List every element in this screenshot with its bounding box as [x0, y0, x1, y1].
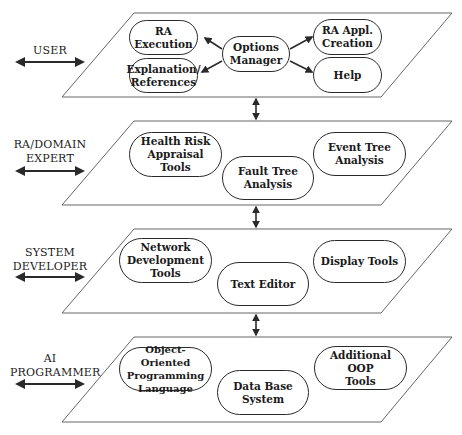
- node-help: Help: [313, 57, 382, 93]
- node-ra-appl-creation: RA Appl. Creation: [313, 19, 382, 55]
- role-label-domain-expert: RA/DOMAIN EXPERT: [10, 138, 90, 166]
- node-ra-execution: RA Execution: [129, 20, 198, 55]
- arrow-options-to-explanation: [202, 61, 222, 72]
- node-options-manager: Options Manager: [222, 36, 290, 72]
- node-display-tools: Display Tools: [313, 240, 406, 283]
- node-health-risk-appraisal-tools: Health Risk Appraisal Tools: [129, 132, 222, 177]
- node-network-development-tools: Network Development Tools: [119, 238, 212, 283]
- node-text-editor: Text Editor: [217, 262, 309, 306]
- role-label-ai-programmer: AI PROGRAMMER: [10, 352, 90, 380]
- arrow-options-to-ra-execution: [205, 38, 222, 49]
- node-event-tree-analysis: Event Tree Analysis: [313, 132, 406, 176]
- node-data-base-system: Data Base System: [217, 370, 309, 415]
- role-label-user: USER: [10, 44, 90, 58]
- node-additional-oop-tools: Additional OOP Tools: [314, 346, 407, 390]
- node-explanation-references: Explanation/ References: [129, 58, 198, 93]
- node-object-oriented-programming-language: Object-Oriented Programming Language: [119, 347, 212, 391]
- arrow-options-to-help: [290, 61, 312, 72]
- role-label-system-developer: SYSTEM DEVELOPER: [10, 246, 90, 274]
- arrow-options-to-ra-appl-creation: [290, 37, 312, 49]
- node-fault-tree-analysis: Fault Tree Analysis: [222, 156, 314, 200]
